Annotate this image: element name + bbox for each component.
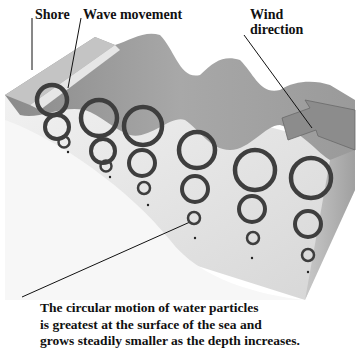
caption: The circular motion of water particles i… [40, 300, 357, 350]
wind-direction-label: Wind direction [250, 7, 303, 37]
caption-line1: The circular motion of water particles [40, 300, 357, 317]
caption-line2: is greatest at the surface of the sea an… [40, 317, 357, 334]
wind-label-line1: Wind [250, 7, 303, 22]
wind-label-line2: direction [250, 22, 303, 37]
wave-movement-label: Wave movement [83, 7, 182, 22]
shore-label: Shore [35, 7, 70, 22]
caption-line3: grows steadily smaller as the depth incr… [40, 333, 357, 350]
